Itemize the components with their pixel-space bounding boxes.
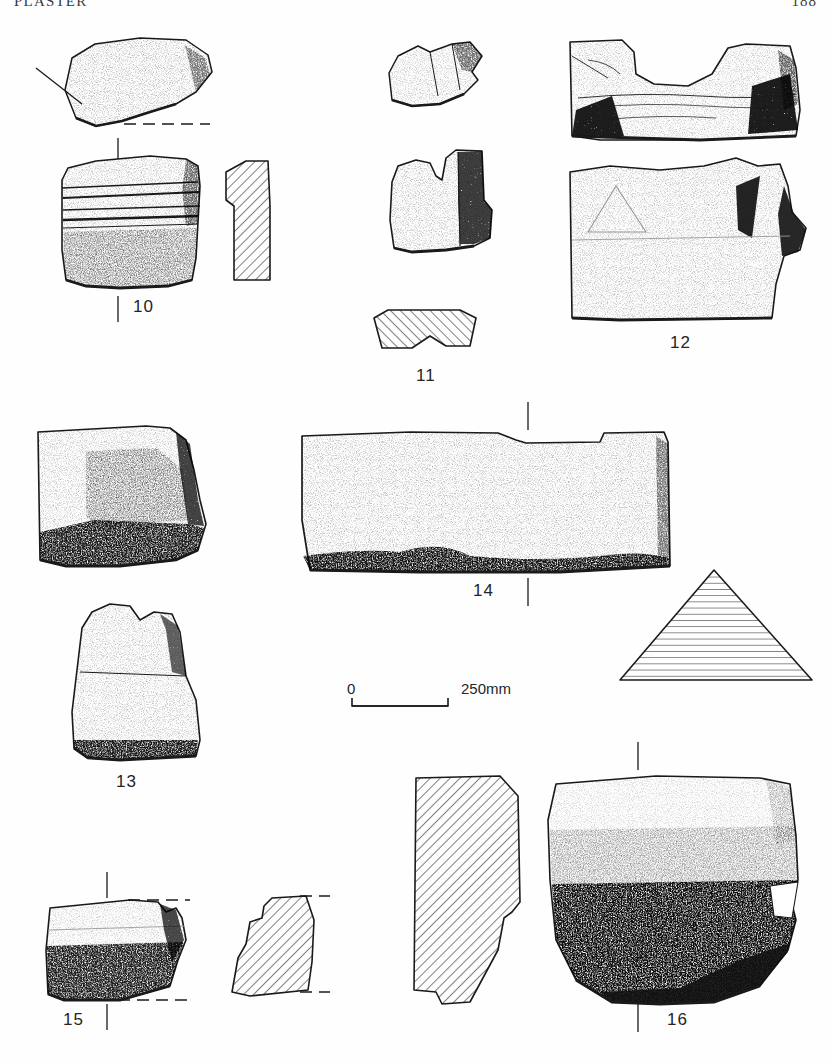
figure-12-front-elevation — [570, 158, 806, 320]
figure-caption-12: 12 — [670, 333, 691, 353]
figure-13 — [38, 426, 206, 760]
figure-16-front-elevation — [548, 776, 798, 1004]
figure-caption-16: 16 — [667, 1010, 688, 1030]
figure-10-front-elevation — [62, 156, 200, 288]
figure-15 — [46, 872, 330, 1030]
figure-13-front-elevation — [38, 426, 206, 566]
figure-11-hatched-section — [374, 310, 476, 348]
running-head: PLASTER — [14, 0, 87, 10]
scale-bar — [352, 698, 448, 706]
figure-14 — [302, 402, 812, 680]
figure-14-front-elevation — [302, 432, 670, 572]
figure-14-triangular-section — [620, 570, 812, 680]
scale-bar-start-label: 0 — [347, 680, 355, 697]
figure-11-top-plan — [389, 42, 482, 106]
figure-12-top-plan — [570, 40, 800, 140]
figure-caption-14: 14 — [473, 581, 494, 601]
figure-caption-13: 13 — [116, 772, 137, 792]
figure-16-hatched-section — [414, 776, 520, 1004]
figure-10 — [36, 38, 270, 322]
figure-13-side-elevation — [72, 604, 200, 760]
figure-11-front-elevation — [390, 150, 492, 252]
scale-bar-end-label: 250mm — [461, 680, 511, 697]
figure-15-front-elevation — [46, 900, 190, 1000]
figure-caption-11: 11 — [416, 366, 436, 386]
figure-16 — [414, 742, 798, 1032]
page-folio: 188 — [792, 0, 818, 10]
figure-caption-15: 15 — [63, 1010, 84, 1030]
figure-10-hatched-section — [226, 161, 270, 280]
plate-drawing-canvas — [0, 0, 833, 1062]
illustration-plate: PLASTER 188 — [0, 0, 833, 1062]
figure-15-hatched-section — [232, 896, 330, 996]
figure-10-top-plan — [36, 38, 212, 126]
figure-12 — [570, 40, 806, 320]
figure-11 — [374, 42, 492, 348]
figure-caption-10: 10 — [133, 297, 154, 317]
